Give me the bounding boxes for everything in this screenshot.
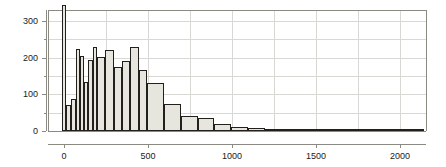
- x-axis-tick: [232, 144, 233, 148]
- y-axis-tick: [42, 58, 46, 59]
- y-axis-minor-tick: [44, 76, 46, 77]
- histogram-bar: [164, 104, 181, 131]
- histogram-bar: [399, 129, 424, 131]
- histogram-bar: [214, 124, 231, 131]
- histogram-bar: [198, 118, 215, 131]
- histogram-bar: [374, 129, 399, 131]
- histogram-bar: [248, 128, 265, 131]
- histogram-bar: [324, 129, 349, 131]
- plot-frame-left: [48, 10, 49, 131]
- x-axis-tick-label: 500: [140, 152, 155, 161]
- histogram-bar: [105, 50, 113, 131]
- plot-area: [48, 10, 426, 131]
- x-axis-line: [48, 144, 426, 145]
- gridline-vertical: [400, 10, 401, 131]
- histogram-bar: [62, 5, 65, 132]
- x-axis-tick-label: 1500: [306, 152, 326, 161]
- histogram-bar: [265, 129, 282, 131]
- y-axis-tick-label: 0: [8, 127, 38, 136]
- gridline-horizontal: [48, 21, 426, 22]
- histogram-bar: [282, 129, 299, 131]
- y-axis-tick-label: 300: [8, 17, 38, 26]
- histogram-bar: [130, 47, 138, 131]
- y-axis-tick-label: 200: [8, 53, 38, 62]
- y-axis-line: [46, 10, 47, 131]
- gridline-vertical: [232, 10, 233, 131]
- plot-frame-right: [426, 10, 427, 131]
- histogram-bar: [181, 116, 198, 131]
- x-axis-tick: [316, 144, 317, 148]
- x-axis-tick: [148, 144, 149, 148]
- x-axis-tick-label: 1000: [222, 152, 242, 161]
- gridline-horizontal: [48, 39, 426, 40]
- x-axis-tick-label: 0: [61, 152, 66, 161]
- x-axis-tick-label: 2000: [390, 152, 410, 161]
- y-axis-tick: [42, 21, 46, 22]
- gridline-vertical: [316, 10, 317, 131]
- histogram-bar: [231, 127, 248, 131]
- histogram-bar: [298, 129, 323, 131]
- gridline-vertical: [274, 10, 275, 131]
- histogram-bar: [97, 57, 105, 131]
- x-axis-tick: [400, 144, 401, 148]
- histogram-bar: [349, 129, 374, 131]
- histogram-bar: [147, 83, 164, 131]
- histogram-bar: [122, 61, 130, 131]
- plot-frame-top: [48, 10, 426, 11]
- gridline-vertical: [358, 10, 359, 131]
- y-axis-minor-tick: [44, 113, 46, 114]
- y-axis-tick-label: 100: [8, 90, 38, 99]
- y-axis-tick: [42, 131, 46, 132]
- y-axis-minor-tick: [44, 39, 46, 40]
- y-axis-tick: [42, 94, 46, 95]
- histogram-bar: [139, 70, 147, 131]
- x-axis-tick: [64, 144, 65, 148]
- histogram-figure: 05001000150020000100200300: [0, 0, 446, 167]
- histogram-bar: [114, 67, 122, 131]
- plot-frame-bottom: [48, 131, 426, 132]
- gridline-vertical: [190, 10, 191, 131]
